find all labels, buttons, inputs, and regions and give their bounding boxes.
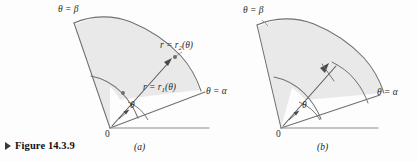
panel-a-label-r-inner: r = r1(θ) [143,83,176,94]
panel-b-label-theta-angle: θ [302,101,307,111]
figure-caption: Figure 14.3.9 [5,140,75,151]
panel-b-origin-label: 0 [276,130,281,140]
figure-drawing [0,0,418,162]
panel-a-label-theta-beta: θ = β [58,5,79,15]
panel-a-label-r-inner-main: r = r [143,82,162,92]
panel-a-tag: (a) [134,143,145,153]
triangle-right-icon [5,142,11,150]
panel-a-point-on-r1 [121,91,125,95]
panel-b-tag: (b) [317,143,328,153]
panel-a-label-theta-angle: θ [130,101,135,111]
panel-a-origin-label: 0 [105,130,110,140]
panel-a-label-theta-alpha: θ = α [206,87,227,97]
panel-b-label-theta-beta: θ = β [243,6,264,16]
panel-a-label-r-outer-arg: (θ) [182,40,193,50]
panel-a-label-r-inner-arg: (θ) [165,82,176,92]
panel-a-label-r-outer-main: r = r [160,40,179,50]
panel-a-label-r-outer: r = r2(θ) [160,41,193,52]
panel-b-graphic [257,19,384,128]
panel-b-label-theta-alpha: θ = α [377,88,398,98]
figure-container: θ = β θ = α r = r2(θ) r = r1(θ) θ 0 (a) … [0,0,418,162]
panel-a-shaded-region [75,18,199,128]
panel-a-graphic [74,17,209,128]
figure-caption-text: Figure 14.3.9 [15,140,75,151]
